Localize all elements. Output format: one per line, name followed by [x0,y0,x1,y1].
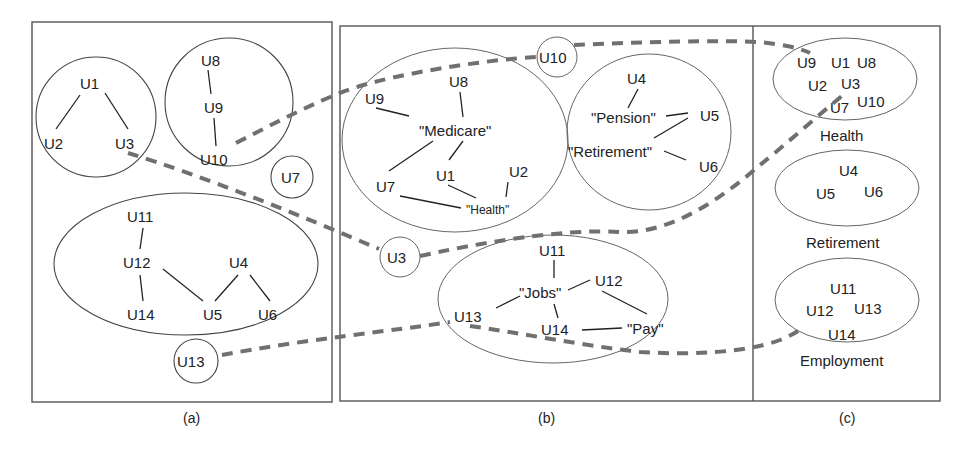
node-u6: U6 [258,306,277,323]
panel-a: U1 U2 U3 U8 U9 U10 U7 U11 U12 U14 U4 U5 … [32,22,332,426]
node-c-u5: U5 [816,185,835,202]
edge-u12-u14 [140,275,143,301]
category-label-retirement: Retirement [806,234,880,251]
group-circle-u8-u9-u10 [165,38,293,166]
edge-jobs-u14 [554,304,558,318]
node-c-u14: U14 [828,326,856,343]
edge-pension-u5 [666,113,688,116]
caption-c: (c) [839,410,855,426]
topic-retirement: "Retirement" [568,143,652,160]
node-c-u2: U2 [808,77,827,94]
node-b-u2: U2 [509,163,528,180]
node-b-u9: U9 [365,90,384,107]
node-b-u11: U11 [539,242,565,259]
node-u9: U9 [204,99,223,116]
node-u14: U14 [127,306,155,323]
edge-u7-health [400,196,461,208]
node-c-u6: U6 [864,183,883,200]
node-b-u5: U5 [700,107,719,124]
node-c-u4: U4 [839,162,858,179]
node-b-u10: U10 [539,49,567,66]
edge-u1-u3 [105,93,128,129]
edge-u2-health [506,182,508,197]
edge-u4-u5 [215,275,238,301]
group-ellipse-u11-u14-u4-u6 [54,193,318,335]
node-b-u7: U7 [376,178,395,195]
node-u10: U10 [200,151,228,168]
topic-jobs: "Jobs" [519,284,561,301]
node-u5: U5 [203,306,222,323]
edge-u4-pension [628,89,638,108]
dashed-path-u3 [128,96,842,256]
node-u13: U13 [177,353,205,370]
node-b-u3: U3 [387,249,406,266]
edge-medicare-u1 [449,141,463,160]
topic-pension: "Pension" [591,109,656,126]
node-c-u11: U11 [830,280,856,297]
node-b-u6: U6 [699,158,718,175]
node-c-u12: U12 [806,302,834,319]
caption-a: (a) [183,410,200,426]
node-c-u10: U10 [857,93,885,110]
node-c-u8: U8 [857,54,876,71]
user-clustering-diagram: U1 U2 U3 U8 U9 U10 U7 U11 U12 U14 U4 U5 … [0,0,967,463]
edge-u5-retirement [654,118,688,138]
node-b-u4: U4 [627,70,646,87]
node-b-u13: U13 [454,308,482,325]
node-c-u13: U13 [854,300,882,317]
edge-u9-u10 [214,118,216,146]
edge-u12-u5 [163,269,203,301]
category-label-health: Health [820,127,863,144]
node-u4: U4 [229,254,248,271]
node-b-u1: U1 [436,167,455,184]
dashed-path-u13 [222,322,798,355]
node-b-u12: U12 [595,272,623,289]
edge-retirement-u6 [664,151,686,160]
node-u1: U1 [80,75,99,92]
edge-medicare-u7 [389,141,433,171]
panel-c: U9 U1 U8 U2 U3 U7 U10 Health U4 U5 U6 Re… [773,38,919,426]
edge-u1-u2 [56,95,80,129]
node-u11: U11 [127,208,153,225]
node-u3: U3 [115,135,134,152]
node-u12: U12 [123,254,151,271]
node-c-u9: U9 [797,54,816,71]
edge-jobs-u12 [568,280,590,290]
node-u8: U8 [201,52,220,69]
edge-u13-jobs [496,296,520,308]
edge-u1-health [448,185,476,198]
category-label-employment: Employment [800,352,884,369]
topic-pay: "Pay" [627,320,664,337]
edge-u12-pay [602,291,647,314]
edge-u9-medicare [376,108,409,116]
node-u2: U2 [44,135,63,152]
node-u7: U7 [281,169,300,186]
topic-medicare: "Medicare" [419,122,491,139]
edge-u8-u9 [208,70,211,94]
edge-u14-pay [582,328,622,330]
topic-health: "Health" [466,203,509,217]
node-c-u3: U3 [841,75,860,92]
node-b-u8: U8 [449,73,468,90]
node-c-u1: U1 [831,54,850,71]
edge-u8-medicare [460,92,463,117]
cluster-retirement-circle [567,54,731,210]
edge-u4-u6 [250,275,270,301]
dashed-path-u10 [236,41,810,143]
edge-u11-u12 [140,228,143,249]
caption-b: (b) [538,410,555,426]
node-b-u14: U14 [541,321,569,338]
